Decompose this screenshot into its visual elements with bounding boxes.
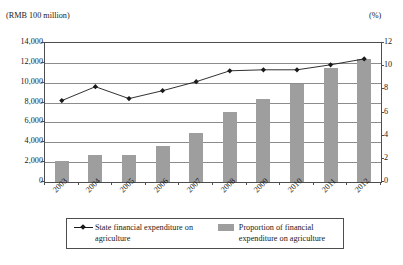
x-tick-mark <box>279 182 280 185</box>
left-tick-label-8000: 8,000 <box>0 98 43 106</box>
right-tick-label-12: 12 <box>384 38 403 46</box>
left-tick-mark <box>41 102 44 103</box>
left-tick-label-14000: 14,000 <box>0 38 43 46</box>
x-tick-mark <box>178 182 179 185</box>
left-tick-mark <box>41 121 44 122</box>
legend-item-bar: Proportion of financial expenditure on a… <box>217 222 339 244</box>
left-tick-label-2000: 2,000 <box>0 157 43 165</box>
x-tick-mark <box>246 182 247 185</box>
line-marker-2011 <box>328 62 333 67</box>
right-tick-mark <box>381 181 384 182</box>
line-path <box>62 59 364 101</box>
left-tick-mark <box>41 141 44 142</box>
right-axis-unit-label: (%) <box>369 11 381 21</box>
chart-legend: State financial expenditure on agricultu… <box>66 218 344 249</box>
legend-item-bar-label: Proportion of financial expenditure on a… <box>239 222 339 244</box>
x-tick-mark <box>380 182 381 185</box>
left-tick-mark <box>41 82 44 83</box>
x-tick-mark <box>111 182 112 185</box>
line-marker-2009 <box>261 67 266 72</box>
line-marker-2007 <box>194 79 199 84</box>
right-tick-mark <box>381 88 384 89</box>
line-marker-2005 <box>126 96 131 101</box>
right-tick-label-2: 2 <box>384 154 403 162</box>
right-tick-mark <box>381 158 384 159</box>
left-tick-label-10000: 10,000 <box>0 78 43 86</box>
x-tick-mark <box>346 182 347 185</box>
right-tick-mark <box>381 112 384 113</box>
line-series <box>45 43 381 182</box>
left-axis-unit-label: (RMB 100 million) <box>6 11 70 21</box>
right-tick-label-4: 4 <box>384 131 403 139</box>
line-marker-2004 <box>93 84 98 89</box>
x-tick-mark <box>313 182 314 185</box>
line-marker-2012 <box>362 56 367 61</box>
left-tick-mark <box>41 42 44 43</box>
legend-item-line: State financial expenditure on agricultu… <box>73 222 217 244</box>
left-tick-mark <box>41 62 44 63</box>
right-tick-mark <box>381 65 384 66</box>
line-marker-2003 <box>59 98 64 103</box>
left-tick-label-4000: 4,000 <box>0 137 43 145</box>
bar-color-swatch-icon <box>217 222 239 233</box>
x-tick-mark <box>145 182 146 185</box>
line-marker-swatch-icon <box>73 222 95 233</box>
left-tick-label-6000: 6,000 <box>0 117 43 125</box>
right-tick-mark <box>381 135 384 136</box>
x-tick-mark <box>44 182 45 185</box>
line-marker-2006 <box>160 88 165 93</box>
right-tick-label-6: 6 <box>384 108 403 116</box>
x-tick-mark <box>212 182 213 185</box>
left-tick-label-12000: 12,000 <box>0 58 43 66</box>
line-marker-2008 <box>227 68 232 73</box>
line-marker-2010 <box>294 67 299 72</box>
plot-area <box>44 42 382 183</box>
x-tick-mark <box>78 182 79 185</box>
right-tick-label-8: 8 <box>384 84 403 92</box>
right-tick-label-0: 0 <box>384 177 403 185</box>
right-tick-label-10: 10 <box>384 61 403 69</box>
chart-figure: (RMB 100 million) (%) 14,00012,00010,000… <box>0 0 403 265</box>
left-tick-mark <box>41 161 44 162</box>
right-tick-mark <box>381 42 384 43</box>
legend-item-line-label: State financial expenditure on agricultu… <box>95 222 217 244</box>
left-tick-label-0: 0 <box>0 177 43 185</box>
